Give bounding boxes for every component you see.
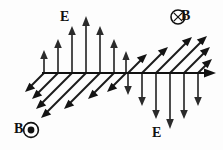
e-vector-up-3 [68, 26, 76, 73]
b-vector-dl-4 [41, 73, 86, 118]
e-vector-up-6 [110, 39, 118, 73]
label-e-field-bottom: E [152, 126, 161, 140]
b-vector-dl-5 [64, 73, 100, 109]
b-field-vectors-down-left [25, 73, 126, 118]
e-vector-up-5 [96, 26, 104, 73]
e-vector-up-7 [122, 51, 129, 73]
b-out-of-page-symbol [24, 123, 39, 138]
e-vector-down-3 [152, 73, 160, 119]
e-vector-down-6 [194, 73, 202, 106]
b-vector-ur-5 [184, 47, 210, 73]
e-vector-down-1 [124, 73, 132, 95]
em-wave-figure: E E B B [0, 0, 223, 150]
e-vector-up-4 [82, 16, 90, 73]
label-e-field-top: E [60, 10, 69, 24]
e-vector-down-4 [166, 73, 174, 129]
b-vector-ur-2 [142, 47, 168, 73]
e-vector-down-5 [180, 73, 188, 119]
e-vector-up-2 [54, 39, 62, 73]
b-vector-ur-3 [156, 37, 192, 73]
label-b-field-out-of-page: B [14, 122, 23, 136]
e-vector-down-2 [138, 73, 146, 106]
e-vector-up-1 [40, 50, 48, 73]
b-vector-dl-2 [32, 73, 58, 99]
label-b-field-into-page: B [181, 9, 190, 23]
e-field-vectors-down [124, 73, 202, 129]
e-field-vectors-up [40, 16, 129, 73]
b-field-vectors-up-right [128, 36, 212, 73]
